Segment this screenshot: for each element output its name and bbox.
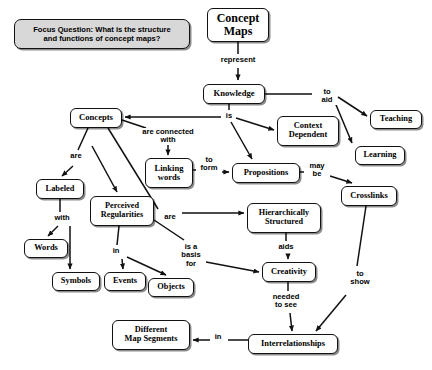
concept-node-context_dep: Context Dependent xyxy=(277,116,339,146)
concept-node-objects: Objects xyxy=(148,278,194,297)
concept-node-propositions: Propositions xyxy=(232,163,300,183)
concept-node-creativity: Creativity xyxy=(262,262,316,282)
concept-node-linking: Linking words xyxy=(145,158,193,188)
link-label-is_a_basis: is a basis for xyxy=(178,243,204,268)
concept-node-segments: Different Map Segments xyxy=(112,320,190,350)
focus-question-box: Focus Question: What is the structure an… xyxy=(14,19,190,49)
edge-toshow-interrel xyxy=(316,295,346,331)
edge-with-words xyxy=(48,226,58,236)
concept-node-perceived: Perceived Regularities xyxy=(90,196,154,226)
link-label-to_show: to show xyxy=(346,270,374,287)
edge-are-perceived xyxy=(92,146,117,192)
concept-node-teaching: Teaching xyxy=(370,110,422,129)
edge-toaid-teaching xyxy=(338,97,367,116)
link-label-is: is xyxy=(223,112,235,120)
edge-crosslinks-toshow xyxy=(357,206,366,266)
edge-perceived-in xyxy=(117,226,119,245)
link-label-are_conn: are connected with xyxy=(131,128,205,145)
link-label-represent: represent xyxy=(211,56,265,64)
link-label-in_bottom: in xyxy=(212,333,224,341)
edge-perceived-isabasis xyxy=(154,220,184,240)
concept-node-crosslinks: Crosslinks xyxy=(341,186,397,206)
concept-node-knowledge: Knowledge xyxy=(203,84,265,104)
concept-node-events: Events xyxy=(104,272,146,291)
link-label-may_be: may be xyxy=(304,162,330,179)
concept-node-learning: Learning xyxy=(355,146,405,165)
concept-node-symbols: Symbols xyxy=(52,272,100,291)
concept-node-hier: Hierarchically Structured xyxy=(247,203,321,233)
concept-node-words: Words xyxy=(24,239,68,258)
edge-needed-interrel xyxy=(290,313,292,331)
link-label-to_form: to form xyxy=(196,156,222,173)
edge-in-events xyxy=(122,259,123,269)
edge-maybe-crosslinks xyxy=(330,176,352,183)
concept-node-concepts: Concepts xyxy=(70,108,122,128)
link-label-are_left: are xyxy=(66,152,86,160)
edge-concepts-are xyxy=(78,128,88,150)
edge-is-propositions xyxy=(231,122,252,159)
link-label-aids: aids xyxy=(274,243,298,251)
link-label-in: in xyxy=(110,247,122,255)
edge-is-contextdep xyxy=(236,118,274,130)
link-label-are_right: are xyxy=(160,213,180,221)
edge-are-labeled xyxy=(62,166,73,176)
edge-isabasis-creativity xyxy=(206,262,259,272)
concept-node-concept_maps: Concept Maps xyxy=(207,8,269,42)
link-label-with: with xyxy=(50,214,74,222)
concept-node-interrel: Interrelationships xyxy=(248,334,338,354)
link-label-needed: needed to see xyxy=(266,293,306,310)
concept-node-labeled: Labeled xyxy=(36,179,84,199)
link-label-to_aid: to aid xyxy=(317,88,337,105)
concept-map-canvas: Focus Question: What is the structure an… xyxy=(0,0,432,370)
